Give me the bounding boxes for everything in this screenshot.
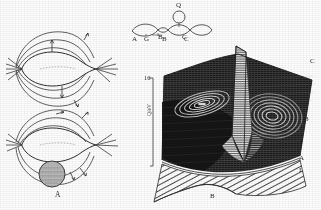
surface-label-right-upper: C bbox=[310, 58, 315, 65]
surface-label-top-mid: C bbox=[182, 34, 187, 41]
surface-label-right-lower: A bbox=[299, 155, 304, 162]
surface-label-top-left: B bbox=[158, 34, 163, 41]
potential-energy-surface: 16 Q/eV B C C B A L B bbox=[140, 36, 321, 210]
surface-label-right-bottom: L bbox=[299, 167, 303, 174]
scientific-figure: A A G B bbox=[0, 0, 321, 210]
field-line-diagrams-svg bbox=[0, 0, 130, 210]
z-axis bbox=[149, 78, 153, 166]
field-line-lobe-diagram bbox=[6, 32, 118, 107]
surface-label-base: B bbox=[210, 193, 215, 200]
orbital-label-q: Q bbox=[176, 2, 181, 9]
orbital-label-a: A bbox=[132, 36, 137, 43]
z-axis-label: Q/eV bbox=[147, 104, 153, 116]
surface-body bbox=[160, 46, 316, 179]
field-line-lobe-with-sphere-diagram bbox=[6, 110, 118, 187]
surface-plot-svg bbox=[140, 36, 321, 210]
left-panel: A bbox=[0, 0, 130, 210]
z-axis-tick-16: 16 bbox=[144, 74, 151, 81]
left-panel-caption: A bbox=[55, 191, 60, 199]
surface-label-right-mid: B bbox=[304, 116, 309, 123]
